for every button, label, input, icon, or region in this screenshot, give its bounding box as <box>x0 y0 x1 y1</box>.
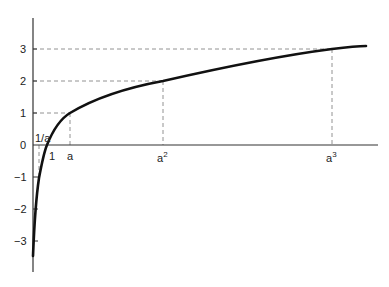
y-tick-label-neg1: −1 <box>14 171 27 183</box>
y-tick-label-0: 0 <box>20 139 26 151</box>
x-label-inv-a: 1/a <box>35 132 51 144</box>
x-label-a-cubed: a3 <box>326 150 337 164</box>
guide-lines <box>33 49 332 178</box>
x-label-a-squared: a2 <box>157 150 168 164</box>
y-tick-label-3: 3 <box>20 43 26 55</box>
x-label-a: a <box>67 150 74 162</box>
log-curve-chart: 3 2 1 0 −1 −2 −3 1/a 1 a a2 a3 <box>0 0 389 287</box>
y-tick-label-neg2: −2 <box>14 203 27 215</box>
y-tick-label-2: 2 <box>20 75 26 87</box>
x-label-1: 1 <box>49 150 55 162</box>
y-tick-label-1: 1 <box>20 107 26 119</box>
y-tick-label-neg3: −3 <box>14 235 27 247</box>
log-curve <box>33 46 366 256</box>
